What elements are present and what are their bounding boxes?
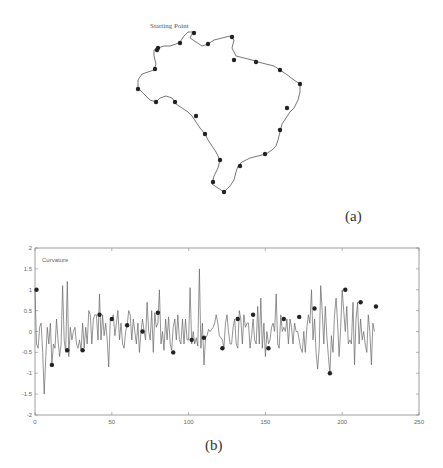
y-tick-label: -0.5	[22, 349, 33, 355]
curvature-marker	[80, 348, 84, 352]
y-tick-label: 1	[29, 287, 33, 293]
x-tick-label: 150	[260, 419, 271, 425]
curvature-marker	[236, 317, 240, 321]
curvature-marker	[266, 346, 270, 350]
curvature-marker	[251, 313, 255, 317]
y-tick-label: 2	[29, 245, 33, 251]
curvature-marker	[297, 315, 301, 319]
y-tick-label: -2	[27, 412, 33, 418]
legend-curvature: Curvature	[42, 257, 69, 263]
curvature-marker	[202, 336, 206, 340]
curvature-marker	[110, 317, 114, 321]
curvature-line	[35, 269, 375, 394]
x-tick-label: 50	[108, 419, 115, 425]
curvature-marker	[171, 350, 175, 354]
curvature-marker	[34, 288, 38, 292]
curvature-chart: -2-1.5-1-0.500.511.52 050100150200250 Cu…	[0, 0, 443, 468]
curvature-marker	[50, 363, 54, 367]
y-tick-label: -1.5	[22, 391, 33, 397]
y-axis-ticks: -2-1.5-1-0.500.511.52	[22, 245, 419, 418]
x-tick-label: 200	[337, 419, 348, 425]
y-tick-label: 0	[29, 329, 33, 335]
x-tick-label: 250	[414, 419, 425, 425]
curvature-marker	[125, 323, 129, 327]
curvature-marker	[65, 348, 69, 352]
curvature-marker	[282, 317, 286, 321]
panel-b-label: (b)	[205, 437, 223, 454]
curvature-marker	[358, 300, 362, 304]
y-tick-label: -1	[27, 370, 33, 376]
x-tick-label: 100	[184, 419, 195, 425]
x-tick-label: 0	[33, 419, 37, 425]
curvature-marker	[220, 346, 224, 350]
y-tick-label: 0.5	[24, 308, 33, 314]
curvature-marker	[97, 313, 101, 317]
curvature-marker	[343, 288, 347, 292]
curvature-marker	[374, 304, 378, 308]
curvature-marker	[156, 311, 160, 315]
curvature-marker	[312, 306, 316, 310]
curvature-marker	[189, 338, 193, 342]
y-tick-label: 1.5	[24, 266, 33, 272]
curvature-marker	[328, 371, 332, 375]
curvature-marker	[140, 329, 144, 333]
